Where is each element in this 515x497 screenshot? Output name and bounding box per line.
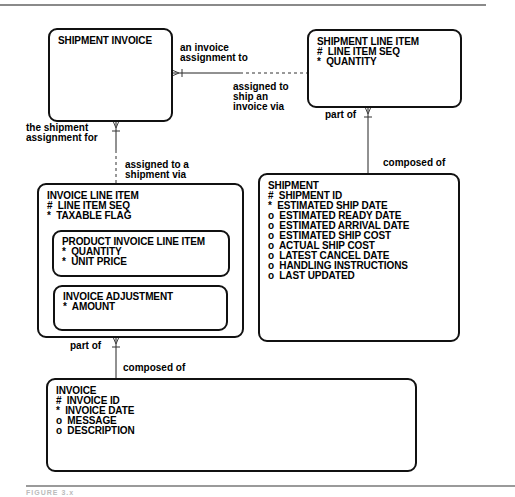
label-composed-of-shipment: composed of xyxy=(383,158,445,168)
subtype-invoice-adjustment[interactable]: INVOICE ADJUSTMENT * AMOUNT xyxy=(53,285,228,331)
label-assigned-to-a-shipment-via: assigned to a shipment via xyxy=(125,160,189,180)
label-line: assignment to xyxy=(180,53,248,63)
entity-name: SHIPMENT INVOICE xyxy=(58,36,163,46)
subtype-product-invoice-line-item[interactable]: PRODUCT INVOICE LINE ITEM * QUANTITY * U… xyxy=(52,230,230,277)
attribute: * AMOUNT xyxy=(63,302,218,312)
attribute: o LAST UPDATED xyxy=(268,271,450,281)
label-line: assignment for xyxy=(26,133,98,143)
rel-ili-invoice-line xyxy=(112,337,120,378)
rel-si-ili-line xyxy=(112,121,120,183)
label-line: shipment via xyxy=(125,170,189,180)
attribute: * UNIT PRICE xyxy=(62,257,220,267)
attribute: * QUANTITY xyxy=(317,57,452,67)
entity-shipment-invoice[interactable]: SHIPMENT INVOICE xyxy=(48,28,173,122)
rel-si-sli-line xyxy=(172,69,307,77)
label-line: invoice via xyxy=(233,102,289,112)
label-part-of-ili: part of xyxy=(70,341,101,351)
label-the-shipment-assignment-for: the shipment assignment for xyxy=(26,123,98,143)
attribute: o DESCRIPTION xyxy=(56,426,407,436)
entity-shipment-line-item[interactable]: SHIPMENT LINE ITEM # LINE ITEM SEQ * QUA… xyxy=(307,29,462,108)
rel-sli-shipment-line xyxy=(364,107,372,173)
entity-invoice[interactable]: INVOICE # INVOICE ID * INVOICE DATE o ME… xyxy=(46,378,417,472)
attribute: * TAXABLE FLAG xyxy=(47,211,234,221)
label-assigned-to-ship-an-invoice-via: assigned to ship an invoice via xyxy=(233,82,289,112)
label-an-invoice-assignment-to: an invoice assignment to xyxy=(180,43,248,63)
entity-shipment[interactable]: SHIPMENT # SHIPMENT ID * ESTIMATED SHIP … xyxy=(258,173,460,342)
label-composed-of-invoice: composed of xyxy=(123,363,185,373)
label-part-of-sli: part of xyxy=(325,110,356,120)
